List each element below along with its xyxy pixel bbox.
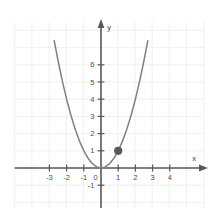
y-axis-label: y	[107, 23, 111, 32]
x-tick-label--1: -1	[80, 173, 87, 182]
y-tick-label-6: 6	[90, 60, 94, 69]
y-tick-label-3: 3	[90, 112, 94, 121]
marked-point	[114, 147, 122, 155]
parabola-plot: -3 -2 -1 0 1 2 3 4 1 2 3 4 5 6 -1 x y	[0, 0, 214, 214]
y-tick-label-1: 1	[90, 146, 94, 155]
x-tick-label-1: 1	[116, 173, 120, 182]
figure-panel-b: b	[0, 0, 214, 214]
y-tick-label--1: -1	[88, 181, 95, 190]
x-tick-label--3: -3	[46, 173, 53, 182]
y-tick-label-4: 4	[90, 95, 94, 104]
x-tick-label-3: 3	[151, 173, 155, 182]
y-tick-label-5: 5	[90, 78, 94, 87]
x-axis-label: x	[192, 154, 196, 163]
x-tick-label-2: 2	[133, 173, 137, 182]
x-tick-label-4: 4	[168, 173, 172, 182]
x-tick-label--2: -2	[63, 173, 70, 182]
y-tick-label-2: 2	[90, 129, 94, 138]
